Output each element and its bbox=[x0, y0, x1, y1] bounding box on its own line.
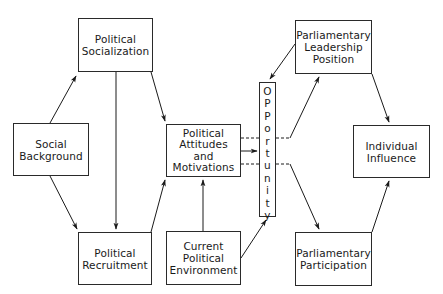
node-label: Parliamentary Leadership Position bbox=[296, 29, 371, 65]
edge-leadership-to-opportunity bbox=[270, 44, 295, 79]
node-political-recruitment: Political Recruitment bbox=[78, 232, 152, 285]
node-parliamentary-participation: Parliamentary Participation bbox=[295, 232, 372, 286]
edge-background-to-recruitment bbox=[50, 176, 77, 229]
node-label: Social Background bbox=[19, 138, 83, 162]
edge-participation-to-influence bbox=[372, 181, 389, 232]
node-label: Parliamentary Participation bbox=[296, 247, 371, 271]
node-political-socialization: Political Socialization bbox=[78, 18, 153, 72]
edge-socialization-to-attitudes bbox=[151, 72, 165, 121]
node-individual-influence: Individual Influence bbox=[353, 125, 430, 178]
node-leadership-position: Parliamentary Leadership Position bbox=[295, 20, 372, 74]
node-social-background: Social Background bbox=[13, 123, 89, 176]
node-label: Political Socialization bbox=[82, 33, 149, 57]
edge-background-to-socialization bbox=[50, 76, 76, 123]
edge-environment-to-opportunity bbox=[241, 220, 266, 258]
node-label: Political Attitudes and Motivations bbox=[173, 128, 235, 174]
edge-opportunity-to-participation bbox=[290, 164, 319, 229]
edge-opportunity-to-leadership bbox=[290, 77, 319, 138]
node-label: Current Political Environment bbox=[169, 240, 237, 276]
node-current-environment: Current Political Environment bbox=[166, 231, 241, 285]
node-label: Individual Influence bbox=[365, 140, 417, 164]
node-opportunity: O P P o r t u n i t y bbox=[259, 82, 276, 217]
edge-leadership-to-influence bbox=[372, 74, 389, 122]
edge-recruitment-to-attitudes bbox=[151, 180, 165, 232]
node-political-attitudes: Political Attitudes and Motivations bbox=[166, 124, 241, 177]
node-label: O P P o r t u n i t y bbox=[263, 85, 271, 221]
node-label: Political Recruitment bbox=[82, 247, 148, 271]
diagram-canvas: Political Socialization Social Backgroun… bbox=[0, 0, 443, 294]
